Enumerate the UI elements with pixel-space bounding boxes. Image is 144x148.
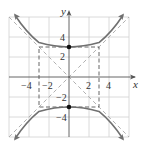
x-tick-neg2: −2 — [42, 80, 53, 91]
hyperbola-graph: y x −4 −2 2 4 4 2 −2 −4 — [0, 0, 144, 148]
y-tick-2: 2 — [60, 51, 65, 62]
y-axis-label: y — [60, 5, 66, 17]
vertex-lower — [67, 105, 72, 110]
y-tick-4: 4 — [60, 32, 65, 43]
x-tick-2: 2 — [86, 80, 91, 91]
y-tick-neg4: −4 — [56, 112, 67, 123]
y-tick-neg2: −2 — [56, 92, 67, 103]
vertex-upper — [67, 45, 72, 50]
x-tick-4: 4 — [106, 80, 111, 91]
axes — [9, 12, 135, 137]
x-tick-neg4: −4 — [21, 80, 32, 91]
x-axis-label: x — [132, 78, 138, 90]
